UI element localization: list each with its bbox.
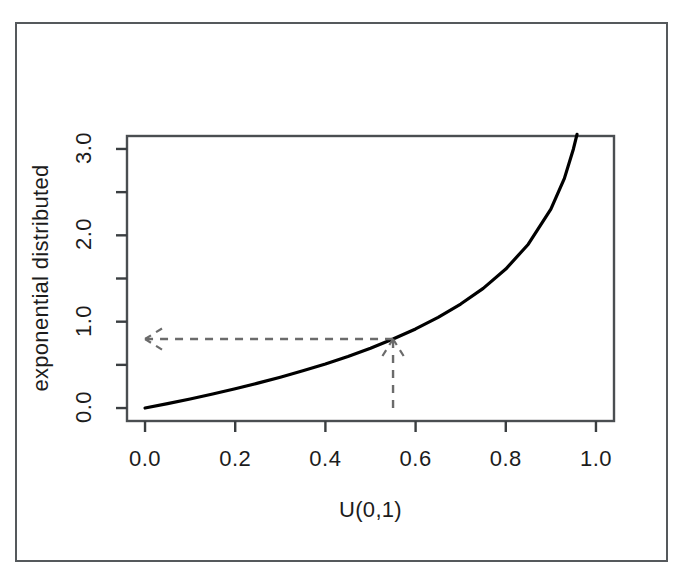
annotation-layer <box>145 325 407 408</box>
x-tick-label: 0.4 <box>301 446 349 472</box>
plot-frame <box>127 136 614 421</box>
figure-container: U(0,1) exponential distributed 0.00.20.4… <box>0 0 682 577</box>
axes-frame <box>127 136 614 421</box>
x-tick-label: 0.6 <box>392 446 440 472</box>
x-tick-label: 0.0 <box>121 446 169 472</box>
arrowhead-barb <box>145 325 167 339</box>
x-tick-label: 0.2 <box>211 446 259 472</box>
y-tick-label: 3.0 <box>71 124 97 172</box>
x-tick-label: 1.0 <box>572 446 620 472</box>
arrowhead-barb <box>145 339 167 353</box>
x-axis-ticks <box>145 421 596 432</box>
y-tick-label: 0.0 <box>71 383 97 431</box>
exponential-curve <box>145 134 577 408</box>
x-axis-title: U(0,1) <box>251 497 491 523</box>
x-tick-label: 0.8 <box>482 446 530 472</box>
y-axis-title: exponential distributed <box>28 128 54 428</box>
plot-canvas <box>0 0 682 577</box>
arrowhead-barb <box>393 339 407 361</box>
y-axis-ticks <box>116 149 127 408</box>
y-tick-label: 2.0 <box>71 210 97 258</box>
y-tick-label: 1.0 <box>71 297 97 345</box>
